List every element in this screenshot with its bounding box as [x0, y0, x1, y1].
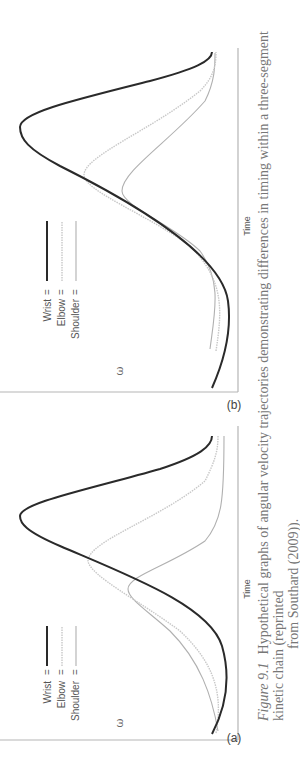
panel-a-legend: Wrist = Elbow = Shoulder = — [42, 626, 81, 721]
legend-eq: = — [56, 669, 67, 675]
caption-line-1: Hypothetical graphs of angular velocity … — [256, 31, 286, 721]
panel-b: ω (b) Time Wrist = Elbow = Shoulder = — [0, 48, 252, 412]
panel-a: ω (a) Time Wrist = Elbow = Shoulder = — [0, 426, 252, 745]
figure-svg: ω (a) Time Wrist = Elbow = Shoulder = — [0, 0, 300, 781]
panel-a-label: (a) — [227, 731, 242, 745]
caption-line-2: from Southard (2009)). — [286, 21, 300, 721]
panel-a-shoulder-curve — [128, 436, 224, 731]
figure-caption: Figure 9.1Hypothetical graphs of angular… — [256, 21, 300, 721]
legend-eq: = — [56, 289, 67, 295]
panel-b-shoulder-curve — [122, 53, 215, 349]
legend-eq: = — [42, 669, 53, 675]
legend-eq: = — [70, 289, 81, 295]
figure-number: Figure 9.1 — [256, 662, 271, 721]
legend-eq: = — [70, 669, 81, 675]
legend-elbow-label: Elbow — [56, 298, 67, 326]
legend-wrist-label: Wrist — [42, 299, 53, 322]
panel-a-elbow-curve — [88, 436, 218, 733]
legend-eq: = — [42, 289, 53, 295]
panel-a-ylabel: ω — [113, 718, 126, 727]
legend-shoulder-label: Shoulder — [70, 298, 81, 339]
panel-b-xlabel: Time — [242, 216, 252, 236]
legend-elbow-label: Elbow — [56, 680, 67, 708]
panel-b-ylabel: ω — [113, 366, 126, 375]
figure-stage: ω (a) Time Wrist = Elbow = Shoulder = — [0, 0, 300, 781]
panel-b-elbow-curve — [84, 52, 220, 351]
panel-b-legend: Wrist = Elbow = Shoulder = — [42, 221, 81, 339]
legend-wrist-label: Wrist — [42, 681, 53, 704]
panel-a-xlabel: Time — [242, 579, 252, 599]
panel-b-wrist-curve — [20, 52, 229, 388]
legend-shoulder-label: Shoulder — [70, 680, 81, 721]
panel-b-label: (b) — [227, 398, 242, 412]
